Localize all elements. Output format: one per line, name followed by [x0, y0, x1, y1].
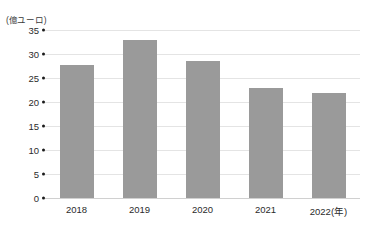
- bar: [249, 88, 283, 198]
- y-axis-tick: 20: [28, 97, 45, 108]
- bar: [60, 65, 94, 198]
- y-axis-tick-label: 10: [28, 145, 39, 156]
- y-axis-tick-dot: [42, 29, 45, 32]
- bar: [186, 61, 220, 198]
- y-axis-tick-label: 20: [28, 97, 39, 108]
- x-axis-label: 2019: [129, 204, 150, 215]
- bar: [312, 93, 346, 198]
- gridline: [45, 30, 360, 31]
- y-axis-tick-label: 0: [34, 193, 39, 204]
- bar-chart: (億ユーロ) 35302520151050 201820192020202120…: [0, 0, 366, 236]
- y-axis-unit-label: (億ユーロ): [6, 13, 46, 25]
- x-axis-label: 2020: [192, 204, 213, 215]
- y-axis-tick: 5: [34, 169, 45, 180]
- x-axis-label: 2022(年): [310, 204, 347, 218]
- gridline: [45, 54, 360, 55]
- bar: [123, 40, 157, 198]
- y-axis-tick-dot: [42, 125, 45, 128]
- y-axis-tick-label: 35: [28, 25, 39, 36]
- x-axis-label: 2018: [66, 204, 87, 215]
- y-axis-tick: 15: [28, 121, 45, 132]
- y-axis-tick-dot: [42, 77, 45, 80]
- y-axis-tick: 10: [28, 145, 45, 156]
- y-axis-tick-dot: [42, 173, 45, 176]
- y-axis-tick: 35: [28, 25, 45, 36]
- y-axis-tick-label: 5: [34, 169, 39, 180]
- x-axis-label: 2021: [255, 204, 276, 215]
- y-axis-tick: 25: [28, 73, 45, 84]
- plot-area: 35302520151050: [45, 30, 360, 198]
- y-axis-tick: 30: [28, 49, 45, 60]
- y-axis-tick-label: 30: [28, 49, 39, 60]
- y-axis-tick-dot: [42, 53, 45, 56]
- y-axis-tick: 0: [34, 193, 45, 204]
- y-axis-tick-dot: [42, 149, 45, 152]
- gridline: [45, 198, 360, 199]
- y-axis-tick-label: 15: [28, 121, 39, 132]
- y-axis-tick-label: 25: [28, 73, 39, 84]
- y-axis-tick-dot: [42, 101, 45, 104]
- y-axis-tick-dot: [42, 197, 45, 200]
